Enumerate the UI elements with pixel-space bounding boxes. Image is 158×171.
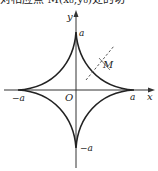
y-axis-arrow-icon xyxy=(74,10,79,17)
label-a-top: a xyxy=(79,28,84,38)
label-neg-a-bottom: −a xyxy=(80,143,93,153)
point-m-label: M xyxy=(102,59,114,70)
y-axis-label: y xyxy=(66,11,73,22)
astroid-figure: y a x a −a O −a M xyxy=(0,0,158,171)
x-axis-label: x xyxy=(147,91,153,102)
label-neg-a-left: −a xyxy=(12,93,25,103)
origin-label: O xyxy=(65,92,73,103)
label-a-right: a xyxy=(130,92,135,102)
